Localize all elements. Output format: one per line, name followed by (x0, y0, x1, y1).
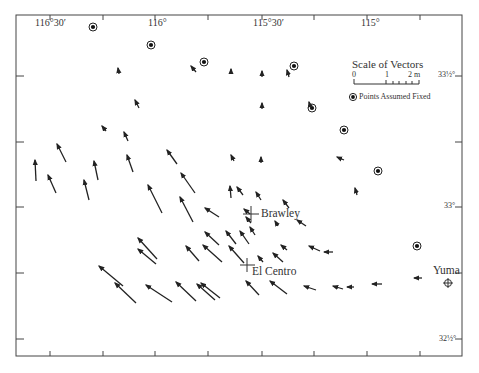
place-brawley: Brawley (261, 207, 300, 219)
vector-arrow-icon (57, 144, 66, 162)
fixed-point-icon (413, 242, 421, 250)
vector-arrow-icon (180, 197, 193, 222)
vector-arrow-icon (205, 232, 219, 245)
vector-arrow-icon (230, 186, 231, 198)
scale-bar (354, 79, 419, 84)
fixed-point-icon (200, 58, 208, 66)
vector-arrow-icon (273, 253, 283, 262)
vector-arrow-icon (181, 173, 195, 193)
vector-arrow-icon (138, 238, 157, 259)
vector-arrow-icon (258, 256, 263, 262)
fixed-point-icon (290, 62, 298, 70)
vector-arrow-icon (99, 266, 123, 286)
bottom-ticks (50, 351, 420, 356)
lon-label-115: 115° (361, 17, 380, 28)
vector-arrow-icon (309, 246, 320, 251)
vector-arrow-icon (35, 160, 36, 181)
vector-arrow-icon (48, 175, 56, 193)
left-ticks (16, 76, 24, 339)
lon-label-115-30: 115°30′ (253, 17, 284, 28)
map-canvas (0, 0, 479, 373)
vector-arrow-icon (118, 68, 119, 74)
fixed-point-icon (308, 104, 316, 112)
vector-arrow-icon (333, 286, 343, 289)
right-ticks (455, 76, 462, 339)
vector-arrow-icon (275, 221, 278, 226)
vector-arrow-icon (297, 220, 306, 226)
vector-arrow-icon (84, 180, 89, 200)
vector-arrow-icon (186, 246, 199, 261)
displacement-vectors (35, 66, 422, 303)
vector-arrow-icon (246, 281, 259, 295)
vector-arrow-icon (148, 185, 162, 213)
vector-arrow-icon (138, 249, 156, 264)
fixed-point-icon (374, 167, 382, 175)
place-el-centro: El Centro (252, 265, 296, 277)
vector-arrow-icon (127, 155, 133, 172)
vector-arrow-icon (102, 126, 106, 131)
fixed-point-icon (147, 41, 155, 49)
lon-label-116: 116° (148, 17, 167, 28)
vector-arrow-icon (244, 209, 250, 214)
vector-arrow-icon (146, 285, 172, 302)
lat-label-32-5: 32½° (439, 334, 456, 343)
fixed-point-icon (89, 23, 97, 31)
vector-arrow-icon (337, 157, 344, 160)
legend-fixed-point-icon (349, 93, 356, 100)
vector-arrow-icon (250, 227, 255, 235)
lat-label-33-5: 33½° (438, 70, 455, 79)
vector-arrow-icon (176, 282, 196, 301)
vector-arrow-icon (135, 100, 139, 108)
vector-arrow-icon (256, 192, 261, 200)
fixed-point-icon (340, 126, 348, 134)
lon-label-116-30: 116°30′ (35, 17, 66, 28)
vector-arrow-icon (115, 283, 136, 303)
legend-scale-title: Scale of Vectors (352, 58, 423, 70)
vector-arrow-icon (246, 217, 251, 223)
legend-scale-tick-1: 1 (385, 70, 389, 79)
vector-arrow-icon (167, 150, 177, 164)
vector-arrow-icon (281, 245, 287, 250)
place-yuma: Yuma (433, 264, 460, 276)
vector-arrow-icon (229, 246, 244, 263)
legend-fixed-label: Points Assumed Fixed (359, 92, 431, 101)
vector-arrow-icon (240, 231, 249, 244)
vector-arrow-icon (203, 245, 222, 262)
lat-label-33: 33° (444, 201, 455, 210)
yuma-marker-icon (443, 278, 453, 288)
vector-arrow-icon (237, 187, 243, 195)
vector-map: 116°30′ 116° 115°30′ 115° 33½° 33° 32½° … (0, 0, 479, 373)
vector-arrow-icon (270, 281, 287, 294)
brawley-marker (243, 206, 259, 222)
vector-arrow-icon (191, 66, 196, 72)
legend-scale-tick-2: 2 m (408, 70, 420, 79)
vector-arrow-icon (226, 231, 236, 244)
vector-arrow-icon (124, 132, 128, 141)
vector-arrow-icon (355, 188, 357, 195)
vector-arrow-icon (231, 155, 234, 161)
vector-arrow-icon (304, 286, 316, 290)
vector-arrow-icon (205, 208, 219, 217)
vector-arrow-icon (287, 70, 289, 77)
vector-arrow-icon (94, 161, 98, 180)
legend-scale-tick-0: 0 (352, 70, 356, 79)
